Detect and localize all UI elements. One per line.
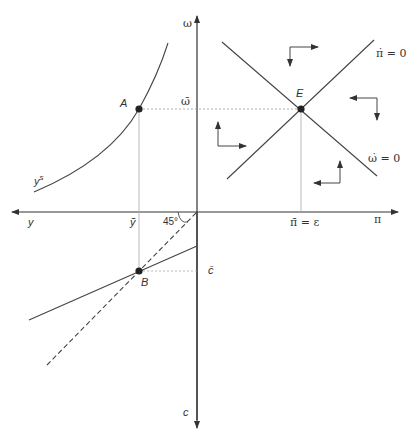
consumption-line xyxy=(29,246,197,320)
arrows-top xyxy=(290,47,318,66)
tick-omega-bar: ω̄ xyxy=(181,96,190,107)
point-A-label: A xyxy=(120,98,127,109)
phase-diagram-canvas xyxy=(0,0,410,439)
tick-pi-bar: π̄ = ε xyxy=(290,217,319,228)
axis-label-omega: ω xyxy=(183,18,192,29)
arrows-bottom xyxy=(314,161,340,183)
omega-dot-locus-label: ω̇ = 0 xyxy=(368,153,400,164)
supply-curve xyxy=(34,43,168,192)
point-A-marker xyxy=(135,105,142,112)
supply-curve-label: ys xyxy=(34,174,44,187)
axis-label-pi: π xyxy=(374,214,381,225)
arrows-left xyxy=(218,122,246,146)
arrows-right xyxy=(350,98,377,120)
point-E-label: E xyxy=(296,88,303,99)
point-B-marker xyxy=(135,267,142,274)
point-B-label: B xyxy=(141,277,148,288)
angle-45-label: 45° xyxy=(163,217,178,227)
angle-arc xyxy=(178,212,188,222)
pi-dot-locus-label: π̇ = 0 xyxy=(376,48,406,59)
tick-y-tilde: ỹ xyxy=(130,217,136,228)
45-degree-line xyxy=(47,212,197,365)
point-E-marker xyxy=(297,105,304,112)
axis-label-y: y xyxy=(28,217,34,228)
tick-c-bar: c̄ xyxy=(208,265,214,276)
axis-label-c: c xyxy=(183,407,189,418)
